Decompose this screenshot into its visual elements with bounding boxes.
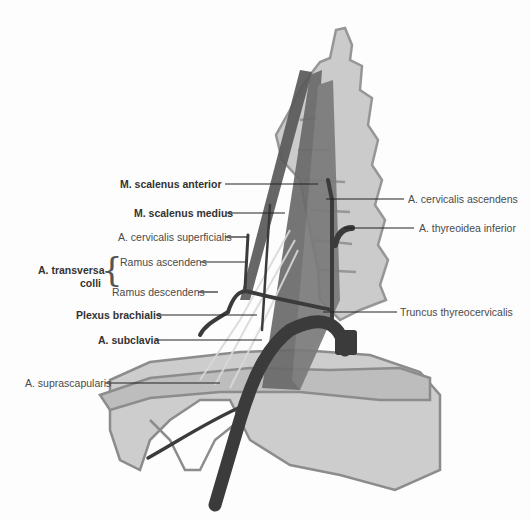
anatomy-illustration bbox=[0, 0, 531, 521]
label-subclavia: A. subclavia bbox=[98, 334, 159, 346]
anatomy-diagram: M. scalenus anterior M. scalenus medius … bbox=[0, 0, 531, 521]
label-transversa-colli-line2: colli bbox=[80, 277, 101, 289]
label-transversa-colli-line1: A. transversa bbox=[38, 264, 105, 276]
label-truncus-thyreocervicalis: Truncus thyreocervicalis bbox=[400, 306, 513, 318]
label-plexus-brachialis: Plexus brachialis bbox=[76, 309, 162, 321]
label-ramus-descendens: Ramus descendens bbox=[112, 286, 205, 298]
label-ramus-ascendens: Ramus ascendens bbox=[120, 256, 207, 268]
label-scalenus-anterior: M. scalenus anterior bbox=[120, 178, 222, 190]
aorta-stub bbox=[335, 330, 357, 355]
brace-icon: { bbox=[101, 252, 123, 286]
label-scalenus-medius: M. scalenus medius bbox=[134, 207, 233, 219]
label-cervicalis-ascendens: A. cervicalis ascendens bbox=[408, 193, 518, 205]
label-suprascapularis: A. suprascapularis bbox=[25, 377, 111, 389]
label-thyreoidea-inferior: A. thyreoidea inferior bbox=[419, 222, 516, 234]
label-cervicalis-superficialis: A. cervicalis superficialis bbox=[118, 231, 232, 243]
